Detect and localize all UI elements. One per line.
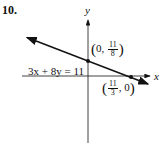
- y-intercept-label: (0, 118): [91, 41, 124, 58]
- line-3x-8y-11: [27, 38, 88, 62]
- y-axis-label: y: [85, 4, 90, 16]
- y-intercept-point: [86, 59, 90, 63]
- x-intercept-label: (113, 0): [102, 80, 135, 97]
- equation-label: 3x + 8y = 11: [28, 65, 84, 77]
- x-intercept-point: [129, 75, 133, 79]
- x-axis-label: x: [154, 70, 159, 82]
